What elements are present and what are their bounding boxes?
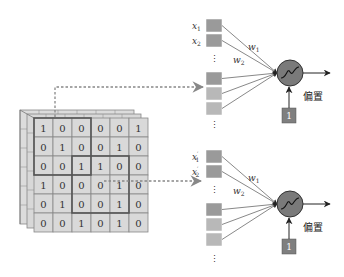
grid-cell-value: 0 (59, 180, 65, 191)
ellipsis-bottom: ⋮ (210, 254, 219, 264)
diagram-canvas: 100001010010001100100010010010001010 x1x… (0, 0, 344, 277)
input-node (206, 218, 222, 231)
grid-cell-value: 0 (78, 199, 84, 210)
grid-cell-value: 1 (59, 142, 65, 153)
grid-cell-value: 0 (97, 218, 103, 229)
ellipsis-middle: ⋮ (210, 120, 219, 130)
grid-cell-value: 1 (97, 161, 103, 172)
input-node (206, 203, 222, 216)
bias-value: 1 (286, 242, 292, 252)
neuron-bottom: x′1x′2⋮w1w21偏置 (192, 150, 330, 254)
input-feature-map: 100001010010001100100010010010001010 (34, 118, 148, 232)
grid-cell-value: 0 (97, 123, 103, 134)
input-label: x′2 (192, 165, 199, 178)
grid-cell-value: 1 (135, 123, 141, 134)
grid-cell-value: 1 (116, 199, 122, 210)
weight-label: w2 (233, 186, 245, 197)
grid-cell-value: 1 (59, 199, 65, 210)
input-node (206, 87, 222, 100)
input-node (206, 150, 222, 163)
input-label: x1 (192, 21, 201, 32)
grid-cell-value: 0 (135, 142, 141, 153)
grid-cell-value: 1 (116, 142, 122, 153)
grid-cell-value: 1 (78, 218, 84, 229)
neuron-top: x1x2⋮w1w21偏置 (192, 19, 330, 123)
grid-cell-value: 1 (40, 180, 46, 191)
bias-label: 偏置 (303, 221, 323, 233)
grid-cell-value: 0 (116, 123, 122, 134)
grid-cell-value: 0 (135, 218, 141, 229)
weight-label: w1 (248, 173, 260, 184)
grid-cell-value: 0 (97, 180, 103, 191)
input-label: x2 (192, 36, 201, 47)
input-node (206, 102, 222, 115)
grid-cell-value: 0 (116, 161, 122, 172)
grid-cell-value: 0 (40, 161, 46, 172)
ellipsis: ⋮ (210, 185, 219, 195)
grid-cell-value: 0 (59, 123, 65, 134)
grid-cell-value: 0 (40, 199, 46, 210)
weight-label: w2 (233, 55, 245, 66)
grid-cell-value: 0 (78, 180, 84, 191)
grid-cell-value: 0 (78, 123, 84, 134)
weight-label: w1 (248, 42, 260, 53)
grid-cell-value: 0 (135, 161, 141, 172)
neuron-body (277, 60, 303, 86)
neuron-body (277, 191, 303, 217)
bias-value: 1 (286, 111, 292, 121)
grid-cell-value: 0 (135, 199, 141, 210)
input-node (206, 34, 222, 47)
grid-cell-value: 0 (40, 218, 46, 229)
ellipsis: ⋮ (210, 54, 219, 64)
grid-cell-value: 0 (59, 161, 65, 172)
input-node (206, 72, 222, 85)
grid-cell-value: 0 (97, 199, 103, 210)
bias-label: 偏置 (303, 90, 323, 102)
grid-cell-value: 1 (116, 218, 122, 229)
grid-cell-value: 0 (40, 142, 46, 153)
input-node (206, 233, 222, 246)
grid-cell-value: 0 (78, 142, 84, 153)
grid-cell-value: 1 (40, 123, 46, 134)
grid-cell-value: 0 (59, 218, 65, 229)
input-label: x′1 (192, 150, 199, 163)
input-node (206, 19, 222, 32)
input-node (206, 165, 222, 178)
grid-cell-value: 0 (97, 142, 103, 153)
grid-cell-value: 1 (78, 161, 84, 172)
